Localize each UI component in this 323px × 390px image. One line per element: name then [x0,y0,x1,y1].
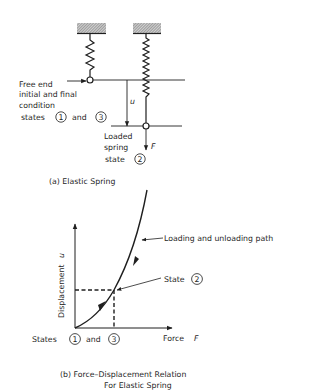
free-end-node [87,77,93,83]
free-end-label-line1: Free end [19,80,53,89]
state-2-number: 2 [138,155,143,164]
state-2-leader [117,278,161,290]
chart-state-2-number: 2 [195,275,200,284]
x-axis-label: Force [163,334,184,343]
path-label-leader [142,238,163,240]
loaded-label-line1: Loaded [104,132,133,141]
x-axis-symbol: F [194,334,199,343]
figure-b-caption-line1: (b) Force–Displacement Relation [60,370,186,379]
origin-label-prefix: States [32,335,57,344]
figure-a-caption: (a) Elastic Spring [49,177,115,186]
origin-label-and: and [86,335,101,344]
path-label: Loading and unloading path [164,234,273,243]
y-axis-label: Displacement u [57,253,66,318]
state-3-number: 3 [99,113,104,122]
states-label-prefix: states [21,113,45,122]
loaded-label-line2: spring [104,143,128,152]
free-spring [86,34,94,77]
states-and: and [72,113,87,122]
unloading-direction-arrow [133,256,139,266]
displacement-symbol: u [130,97,135,106]
left-fixed-support [77,23,106,33]
state-1-number: 1 [59,113,64,122]
spring-figure: u F Free end initial and final condition… [0,0,323,390]
free-end-label-line3: condition [19,101,55,110]
force-symbol: F [151,142,156,151]
chart-state-3-number: 3 [112,335,117,344]
figure-b-caption-line2: For Elastic Spring [104,381,172,390]
force-displacement-chart: Loading and unloading path State 2 Displ… [32,190,273,390]
loaded-spring [143,34,149,123]
y-axis-label-text: Displacement [57,264,66,318]
chart-state-1-number: 1 [73,335,78,344]
loaded-end-node [143,123,149,129]
free-end-label-line2: initial and final [19,90,77,99]
right-fixed-support [133,23,161,33]
y-axis-symbol: u [57,253,66,258]
state-2-label-prefix: State [164,275,185,284]
loaded-state-prefix: state [105,155,125,164]
elastic-spring-diagram: u F Free end initial and final condition… [19,23,185,186]
